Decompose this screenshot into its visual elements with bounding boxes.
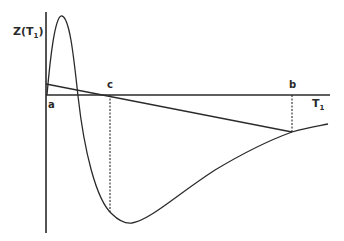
- x-axis-label: T1: [312, 97, 325, 112]
- z-curve: [47, 16, 328, 223]
- point-label-c: c: [107, 79, 113, 90]
- y-axis-label: Z(T1): [13, 25, 43, 40]
- secant-line: [46, 84, 292, 132]
- point-label-a: a: [48, 99, 55, 110]
- point-label-b: b: [289, 79, 296, 90]
- diagram: Z(T1) T1 a c b: [0, 0, 344, 241]
